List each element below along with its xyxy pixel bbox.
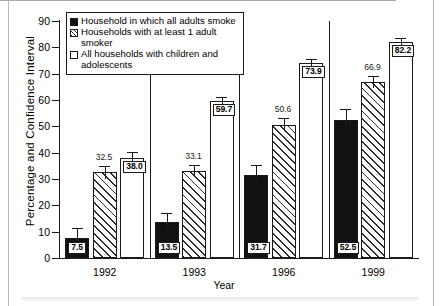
bar — [389, 42, 413, 258]
bar — [93, 172, 117, 258]
error-bar — [105, 166, 106, 179]
bar — [361, 82, 385, 258]
y-axis-tick-label: 30 — [2, 174, 50, 184]
error-bar — [194, 165, 195, 176]
y-axis-tick-label: 0 — [2, 253, 50, 263]
y-axis-tick-labels: 0102030405060708090 — [0, 0, 50, 306]
error-bar-cap — [278, 118, 289, 119]
error-bar-cap — [395, 38, 406, 39]
x-axis-title: Year — [0, 279, 448, 291]
bar-value-label: 32.5 — [96, 153, 112, 162]
error-bar-cap — [306, 59, 317, 60]
bar-value-label: 82.2 — [392, 45, 414, 57]
bar-value-label: 73.9 — [302, 66, 324, 78]
group-separator — [329, 21, 330, 258]
x-axis-tick-label: 1996 — [244, 266, 324, 278]
legend-item: Households with at least 1 adult smoker — [70, 27, 239, 48]
error-bar — [373, 76, 374, 88]
error-bar-cap — [72, 228, 83, 229]
y-axis-tick — [52, 21, 59, 22]
y-axis-tick — [52, 153, 59, 154]
legend-item-label: Households with at least 1 adult smoker — [81, 27, 239, 48]
bar — [120, 158, 144, 258]
error-bar — [346, 109, 347, 130]
x-axis-line — [59, 258, 419, 259]
error-bar-cap — [99, 166, 110, 167]
y-axis-tick — [52, 126, 59, 127]
bar-value-label: 13.5 — [158, 242, 180, 254]
bar — [272, 125, 296, 258]
y-axis-tick — [52, 258, 59, 259]
filled-black-square-icon — [70, 18, 78, 26]
error-bar — [256, 165, 257, 184]
bar-value-label: 59.7 — [213, 104, 235, 116]
y-axis-tick — [52, 179, 59, 180]
bar — [334, 120, 358, 258]
bar-value-label: 38.0 — [123, 161, 145, 173]
y-axis-tick-label: 90 — [2, 16, 50, 26]
y-axis-tick — [52, 47, 59, 48]
bar-value-label: 31.7 — [247, 242, 269, 254]
y-axis-tick-label: 20 — [2, 200, 50, 210]
bar-value-label: 7.5 — [68, 242, 86, 254]
x-axis-tick-label: 1999 — [333, 266, 413, 278]
y-axis-tick-label: 40 — [2, 148, 50, 158]
bar-value-label: 50.6 — [275, 105, 291, 114]
bar-chart-figure: Percentage and Confidence Interval 01020… — [0, 0, 448, 306]
error-bar — [167, 213, 168, 231]
error-bar-cap — [127, 152, 138, 153]
error-bar-cap — [189, 165, 200, 166]
open-white-square-icon — [70, 51, 78, 59]
y-axis-tick-label: 10 — [2, 227, 50, 237]
x-axis-tick-label: 1993 — [154, 266, 234, 278]
error-bar — [284, 118, 285, 131]
bar-value-label: 52.5 — [337, 242, 359, 254]
bar-value-label: 33.1 — [185, 152, 201, 161]
bar-value-label: 66.9 — [364, 63, 380, 72]
legend-item: Household in which all adults smoke — [70, 16, 239, 26]
error-bar-cap — [216, 97, 227, 98]
bar — [182, 171, 206, 258]
y-axis-tick — [52, 205, 59, 206]
y-axis-tick — [52, 232, 59, 233]
error-bar-cap — [368, 76, 379, 77]
legend-item: All households with children and adolesc… — [70, 49, 239, 70]
y-axis-tick — [52, 100, 59, 101]
error-bar-cap — [251, 165, 262, 166]
y-axis-tick-label: 70 — [2, 69, 50, 79]
error-bar-cap — [340, 109, 351, 110]
legend-item-label: Household in which all adults smoke — [81, 16, 236, 26]
y-axis-tick — [52, 74, 59, 75]
y-axis-tick-label: 50 — [2, 121, 50, 131]
y-axis-tick-label: 80 — [2, 42, 50, 52]
hatched-square-icon — [70, 29, 78, 37]
y-axis-tick-label: 60 — [2, 95, 50, 105]
legend-item-label: All households with children and adolesc… — [81, 49, 239, 70]
bar — [299, 63, 323, 258]
bar — [210, 101, 234, 258]
error-bar-cap — [161, 213, 172, 214]
chart-legend: Household in which all adults smokeHouse… — [66, 12, 244, 75]
x-axis-tick-label: 1992 — [65, 266, 145, 278]
